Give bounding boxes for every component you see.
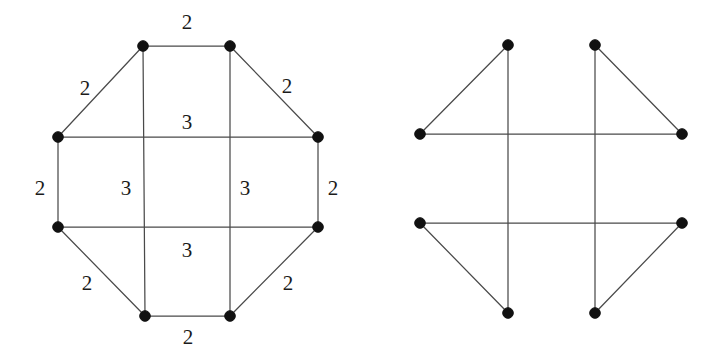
right-lower-vertex-dot: [677, 218, 688, 229]
edge-group: [420, 45, 682, 313]
right-graph-svg: [0, 0, 720, 356]
bottom-right-vertex-dot: [590, 308, 601, 319]
right-figure: [0, 0, 720, 356]
graph-edge: [595, 223, 682, 313]
diagram-canvas: 222222223333: [0, 0, 720, 356]
right-upper-vertex-dot: [677, 129, 688, 140]
left-upper-vertex-dot: [415, 129, 426, 140]
left-lower-vertex-dot: [415, 218, 426, 229]
top-left-vertex-dot: [503, 40, 514, 51]
bottom-left-vertex-dot: [503, 308, 514, 319]
graph-edge: [420, 45, 508, 134]
graph-edge: [420, 223, 508, 313]
vertex-group: [415, 40, 688, 319]
top-right-vertex-dot: [590, 40, 601, 51]
graph-edge: [595, 45, 682, 134]
